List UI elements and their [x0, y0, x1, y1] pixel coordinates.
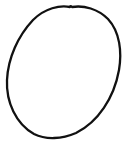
drawing-canvas: [0, 0, 129, 149]
